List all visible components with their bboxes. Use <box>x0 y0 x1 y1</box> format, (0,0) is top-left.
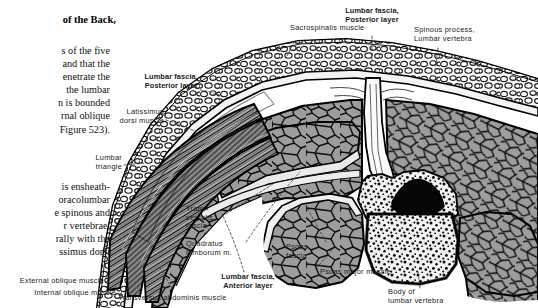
body-paragraph-2: is ensheath-oracolumbare spinous andr ve… <box>0 180 110 259</box>
body-text-line: enetrate the <box>0 70 110 83</box>
label-psoas-fascia: Psoas fascia <box>286 243 308 260</box>
label-lumbar-triangle: Lumbar triangle <box>76 154 122 171</box>
label-psoas-major-muscle: Psoas major muscle <box>320 268 391 277</box>
body-text-line: Figure 523). <box>0 123 110 136</box>
body-text-line: ssimus dorsi <box>0 245 110 258</box>
page-heading: of the Back, <box>0 14 116 26</box>
label-sacrospinalis-muscle: Sacrospinalis muscle <box>290 24 364 33</box>
label-quadratus-lumborum: Quadratus lumborum m. <box>186 240 232 257</box>
body-text-line: the lumbar <box>0 83 110 96</box>
body-text-line: r vertebrae, <box>0 219 110 232</box>
label-spinous-process: Spinous process, Lumbar vertebra <box>414 26 475 43</box>
body-text-line: rnal oblique <box>0 109 110 122</box>
label-lumbar-fascia-anterior: Lumbar fascia, Anterior layer <box>205 273 291 290</box>
label-transversalis-fascia: Trans- versalis fascia <box>186 205 213 231</box>
label-internal-oblique: Internal oblique muscle <box>12 289 116 298</box>
body-text-line: e spinous and <box>0 206 110 219</box>
body-text-line: oracolumbar <box>0 193 110 206</box>
body-text-line: s of the five <box>0 44 110 57</box>
body-paragraph-1: s of the fiveand that theenetrate thethe… <box>0 44 110 136</box>
body-text-line: rally with the <box>0 232 110 245</box>
figure-page: of the Back, s of the fiveand that theen… <box>0 0 538 308</box>
label-lumbar-fascia-posterior-left: Lumbar fascia, Posterior layer <box>108 73 198 90</box>
label-body-lumbar-vertebra: Body of lumbar vertebra <box>388 288 444 305</box>
body-text-line: n is bounded <box>0 96 110 109</box>
label-transversus-abdominis: Transversus abdominis muscle <box>118 294 227 303</box>
label-latissimus-dorsi: Latissimus dorsi muscle <box>96 108 164 125</box>
body-text-line: is ensheath- <box>0 180 110 193</box>
label-lumbar-fascia-posterior-top: Lumbar fascia, Posterior layer <box>332 7 412 24</box>
label-external-oblique: External oblique muscle <box>0 277 104 286</box>
body-text-line: and that the <box>0 57 110 70</box>
